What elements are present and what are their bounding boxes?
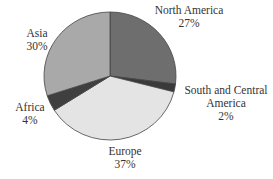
label-europe-name: Europe	[98, 145, 152, 158]
label-africa-value: 4%	[8, 114, 52, 127]
label-north-america-name: North America	[146, 4, 232, 17]
label-africa: Africa 4%	[8, 101, 52, 127]
label-asia-name: Asia	[20, 27, 54, 40]
label-africa-name: Africa	[8, 101, 52, 114]
label-south-central-america: South and Central America 2%	[178, 84, 273, 123]
label-europe-value: 37%	[98, 158, 152, 171]
label-north-america: North America 27%	[146, 4, 232, 30]
label-asia: Asia 30%	[20, 27, 54, 53]
label-south-central-america-name-2: America	[178, 97, 273, 110]
pie-slices	[44, 12, 176, 140]
label-europe: Europe 37%	[98, 145, 152, 171]
label-south-central-america-name-1: South and Central	[178, 84, 273, 97]
label-north-america-value: 27%	[146, 17, 232, 30]
label-south-central-america-value: 2%	[178, 110, 273, 123]
label-asia-value: 30%	[20, 40, 54, 53]
